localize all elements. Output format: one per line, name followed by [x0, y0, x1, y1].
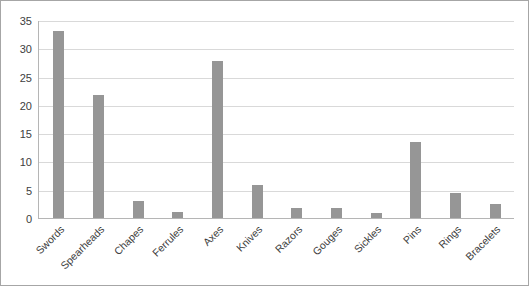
- bar-chart: 05101520253035 SwordsSpearheadsChapesFer…: [0, 0, 529, 286]
- plot-area: [38, 21, 514, 219]
- y-axis-tick-label: 15: [20, 129, 32, 140]
- x-axis-tick-labels: SwordsSpearheadsChapesFerrulesAxesKnives…: [38, 223, 514, 283]
- bar: [450, 193, 461, 218]
- x-axis-tick-label: Knives: [234, 223, 265, 254]
- y-axis-tick-label: 20: [20, 100, 32, 111]
- gridline: [39, 162, 514, 163]
- bar: [252, 185, 263, 218]
- x-axis-tick-label: Bracelets: [463, 223, 502, 262]
- gridline: [39, 191, 514, 192]
- gridline: [39, 49, 514, 50]
- y-axis-tick-label: 0: [26, 214, 32, 225]
- bar: [331, 208, 342, 218]
- y-axis-tick-label: 35: [20, 16, 32, 27]
- x-axis-tick-label: Rings: [436, 223, 463, 250]
- y-axis-tick-label: 25: [20, 72, 32, 83]
- x-axis-tick-label: Axes: [200, 223, 225, 248]
- gridline: [39, 78, 514, 79]
- bar: [490, 204, 501, 218]
- bar: [291, 208, 302, 218]
- gridline: [39, 21, 514, 22]
- x-axis-tick-label: Chapes: [112, 223, 146, 257]
- y-axis-tick-label: 30: [20, 44, 32, 55]
- gridline: [39, 134, 514, 135]
- x-axis-tick-label: Swords: [33, 223, 66, 256]
- x-axis-tick-label: Sickles: [352, 223, 384, 255]
- y-axis-tick-label: 5: [26, 185, 32, 196]
- bar: [93, 95, 104, 218]
- y-axis-tick-labels: 05101520253035: [1, 21, 32, 219]
- bar: [133, 201, 144, 218]
- x-axis-tick-label: Razors: [272, 223, 304, 255]
- x-axis-tick-label: Ferrules: [150, 223, 186, 259]
- bar: [410, 142, 421, 218]
- bar: [371, 213, 382, 218]
- bar: [212, 61, 223, 218]
- bar: [172, 212, 183, 218]
- bar: [53, 31, 64, 218]
- x-axis-tick-label: Gouges: [309, 223, 343, 257]
- x-axis-tick-label: Pins: [400, 223, 423, 246]
- y-axis-tick-label: 10: [20, 157, 32, 168]
- gridline: [39, 106, 514, 107]
